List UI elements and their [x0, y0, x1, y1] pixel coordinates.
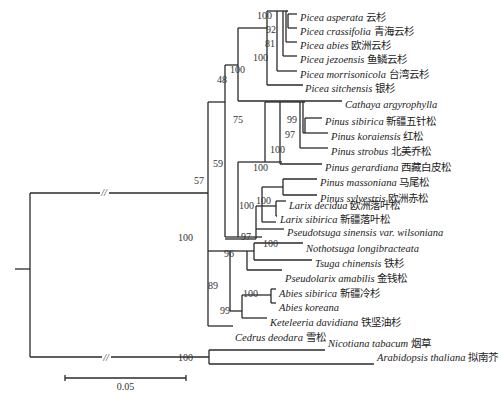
- species-name: Pinus koraiensis: [330, 131, 401, 142]
- species-name: Arabidopsis thaliana: [376, 352, 465, 363]
- taxon-label: Arabidopsis thaliana 拟南芥: [376, 351, 499, 363]
- taxon-label: Larix sibirica 新疆落叶松: [279, 213, 391, 225]
- bootstrap-value: 89: [208, 280, 218, 291]
- bootstrap-value: 100: [253, 52, 268, 63]
- species-name: Abies sibirica: [278, 288, 337, 299]
- species-name: Pseudotsuga sinensis var. wilsoniana: [286, 227, 443, 238]
- chinese-name: 银杉: [372, 82, 395, 94]
- species-name: Pinus sibirica: [324, 116, 384, 127]
- bootstrap-value: 57: [194, 175, 204, 186]
- bootstrap-value: 100: [243, 288, 258, 299]
- bootstrap-value: 97: [285, 129, 295, 140]
- bootstrap-value: 99: [220, 305, 230, 316]
- taxon-label: Picea asperata 云杉: [299, 11, 386, 23]
- taxon-label: Tsuga chinensis 铁杉: [315, 257, 404, 269]
- species-name: Larix sibirica: [279, 214, 337, 225]
- species-name: Pinus massoniana: [319, 177, 397, 188]
- taxon-label: Picea sitchensis 银杉: [304, 82, 395, 94]
- taxon-label: Pinus sibirica 新疆五针松: [324, 115, 437, 127]
- taxon-label: Pinus massoniana 马尾松: [319, 176, 430, 188]
- bootstrap-value: 99: [287, 114, 297, 125]
- taxon-label: Picea jezoensis 鱼鳞云杉: [299, 53, 407, 65]
- bootstrap-value: 100: [178, 352, 193, 363]
- species-name: Pinus gerardiana: [324, 162, 398, 173]
- bootstrap-value: 48: [217, 74, 227, 85]
- chinese-name: 金钱松: [375, 272, 409, 284]
- chinese-name: 西藏白皮松: [398, 161, 452, 173]
- species-name: Picea sitchensis: [304, 83, 372, 94]
- species-name: Picea crassifolia: [299, 26, 371, 37]
- bootstrap-value: 59: [213, 158, 223, 169]
- taxon-label: Abies sibirica 新疆冷杉: [278, 287, 380, 299]
- taxon-label: Pinus gerardiana 西藏白皮松: [324, 161, 452, 173]
- taxon-label: Pseudotsuga sinensis var. wilsoniana: [286, 227, 443, 238]
- taxon-label: Abies koreana: [278, 302, 339, 313]
- species-name: Keteleeria davidiana: [269, 317, 358, 328]
- chinese-name: 铁杉: [381, 257, 404, 269]
- bootstrap-value: 75: [233, 114, 243, 125]
- taxon-label: Keteleeria davidiana 铁坚油杉: [269, 316, 401, 328]
- chinese-name: 雪松: [303, 331, 327, 343]
- branch-break-marks: ////: [100, 187, 111, 363]
- taxon-label: Nothotsuga longibracteata: [305, 243, 419, 254]
- chinese-name: 新疆落叶松: [337, 213, 391, 225]
- species-name: Picea morrisonicola: [299, 69, 386, 80]
- chinese-name: 青海云杉: [371, 25, 414, 37]
- species-name: Abies koreana: [278, 302, 339, 313]
- species-name: Cathaya argyrophylla: [345, 99, 437, 110]
- chinese-name: 鱼鳞云杉: [364, 53, 407, 65]
- taxon-label: Larix decidua 欧洲落叶松: [288, 199, 401, 211]
- chinese-name: 台湾云杉: [386, 68, 429, 80]
- bootstrap-value: 81: [265, 38, 275, 49]
- chinese-name: 红松: [401, 130, 425, 142]
- chinese-name: 铁坚油杉: [358, 316, 401, 328]
- chinese-name: 新疆冷杉: [337, 287, 380, 299]
- bootstrap-value: 100: [253, 162, 268, 173]
- scale-bar: 0.05: [65, 375, 186, 392]
- species-name: Larix decidua: [288, 200, 348, 211]
- bootstrap-value: 100: [178, 232, 193, 243]
- species-name: Tsuga chinensis: [315, 258, 381, 269]
- chinese-name: 新疆五针松: [384, 115, 438, 127]
- taxon-label: Pinus strobus 北美乔松: [330, 145, 432, 157]
- bootstrap-value: 100: [257, 10, 272, 21]
- chinese-name: 马尾松: [397, 176, 431, 188]
- bootstrap-value: 100: [239, 200, 254, 211]
- species-name: Pinus strobus: [330, 146, 388, 157]
- scale-bar-label: 0.05: [117, 381, 135, 392]
- taxon-label: Pinus koraiensis 红松: [330, 130, 424, 142]
- bootstrap-value: 100: [230, 64, 245, 75]
- species-name: Picea asperata: [299, 12, 363, 23]
- bootstrap-value: 97: [241, 231, 251, 242]
- species-name: Cedrus deodara: [235, 332, 303, 343]
- species-name: Picea jezoensis: [299, 54, 364, 65]
- taxon-label: Cedrus deodara 雪松: [235, 331, 327, 343]
- chinese-name: 云杉: [363, 11, 386, 23]
- bootstrap-value: 96: [224, 248, 234, 259]
- species-name: Picea abies: [299, 40, 349, 51]
- chinese-name: 烟草: [408, 337, 431, 349]
- taxon-label: Picea abies 欧洲云杉: [299, 39, 391, 51]
- species-name: Nicotiana tabacum: [327, 338, 409, 349]
- bootstrap-value: 92: [266, 24, 276, 35]
- taxon-label: Cathaya argyrophylla: [345, 99, 437, 110]
- taxon-label: Picea crassifolia 青海云杉: [299, 25, 414, 37]
- bootstrap-value: 100: [270, 144, 285, 155]
- chinese-name: 欧洲云杉: [349, 39, 392, 51]
- phylogenetic-tree: 1009281100100487599971001001005910097571…: [0, 0, 499, 399]
- bootstrap-value: 100: [256, 195, 271, 206]
- chinese-name: 北美乔松: [388, 145, 432, 157]
- bootstrap-value: 100: [263, 238, 278, 249]
- taxon-label: Picea morrisonicola 台湾云杉: [299, 68, 429, 80]
- chinese-name: 欧洲落叶松: [348, 199, 402, 211]
- taxon-label: Pseudolarix amabilis 金钱松: [284, 272, 408, 284]
- species-name: Nothotsuga longibracteata: [305, 243, 419, 254]
- species-name: Pseudolarix amabilis: [284, 273, 375, 284]
- chinese-name: 拟南芥: [465, 351, 499, 363]
- taxon-label: Nicotiana tabacum 烟草: [327, 337, 431, 349]
